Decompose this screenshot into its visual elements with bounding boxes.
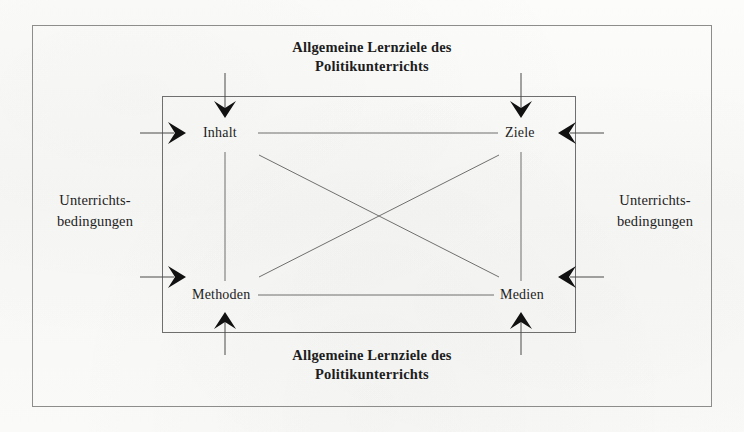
node-label-medien: Medien (500, 287, 544, 303)
figure-page: Allgemeine Lernziele des Politikunterric… (0, 0, 744, 432)
title-bottom-line1: Allgemeine Lernziele des (192, 346, 552, 365)
side-label-right-line1: Unterrichts- (580, 190, 730, 211)
node-label-methoden: Methoden (192, 287, 250, 303)
title-top-line2: Politikunterrichts (192, 57, 552, 76)
side-label-left-line1: Unterrichts- (20, 190, 170, 211)
title-bottom: Allgemeine Lernziele des Politikunterric… (192, 346, 552, 384)
title-bottom-line2: Politikunterrichts (192, 365, 552, 384)
side-label-left-line2: bedingungen (20, 211, 170, 232)
side-label-right: Unterrichts- bedingungen (580, 190, 730, 232)
side-label-right-line2: bedingungen (580, 211, 730, 232)
side-label-left: Unterrichts- bedingungen (20, 190, 170, 232)
node-label-inhalt: Inhalt (203, 125, 237, 141)
node-label-ziele: Ziele (505, 125, 535, 141)
title-top-line1: Allgemeine Lernziele des (192, 38, 552, 57)
title-top: Allgemeine Lernziele des Politikunterric… (192, 38, 552, 76)
